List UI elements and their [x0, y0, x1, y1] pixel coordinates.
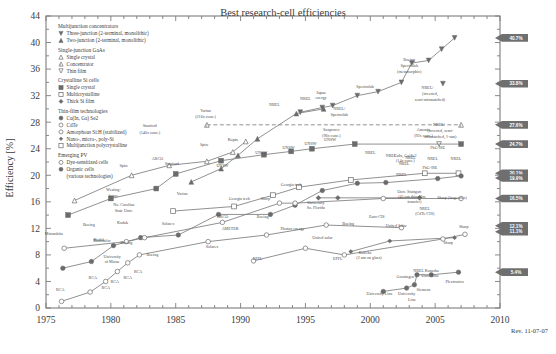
chart-root: 19751980198519901995200020052010 0481216… — [0, 0, 556, 354]
legend-item-label: Organic cells — [67, 166, 94, 172]
data-point-marker — [125, 261, 130, 266]
efficiency-callout: 24.7% — [495, 140, 528, 148]
y-tick-label: 24 — [31, 144, 41, 154]
data-annotation: Amonix — [417, 127, 430, 132]
data-annotation: Siemens — [417, 287, 431, 292]
data-annotation: Spire — [200, 142, 209, 147]
data-point-marker — [59, 144, 63, 148]
x-tick-label: 1995 — [296, 315, 315, 325]
data-annotation: Photon energy — [281, 226, 306, 231]
efficiency-callout: 33.8% — [495, 80, 528, 88]
legend-item-label: Concentrator — [67, 61, 94, 67]
y-tick-label: 44 — [31, 11, 41, 21]
legend-group-heading: Multijunction concentrators — [58, 23, 118, 29]
best-research-cell-efficiencies-chart: 19751980198519901995200020052010 0481216… — [0, 0, 556, 354]
data-annotation: ARCO — [152, 156, 163, 161]
data-point-marker — [268, 212, 273, 217]
data-point-marker — [176, 233, 181, 238]
data-annotation: Kopin — [228, 137, 238, 142]
data-point-marker — [59, 116, 63, 120]
data-annotation: (92x conc.) — [414, 133, 433, 138]
data-point-marker — [355, 181, 360, 186]
data-annotation: RCA — [88, 275, 96, 280]
data-annotation: UNSW — [283, 145, 295, 150]
data-point-marker — [324, 223, 329, 228]
data-annotation: No. Carolina — [113, 202, 134, 207]
data-annotation: Varian — [177, 191, 188, 196]
y-tick-label: 36 — [31, 64, 41, 74]
data-annotation: Georgia tech — [229, 196, 250, 201]
callout-value: 12.1% — [509, 224, 522, 229]
data-annotation: transfer) — [407, 199, 422, 204]
data-point-marker — [348, 178, 353, 183]
data-annotation: Groningen — [397, 274, 415, 279]
data-annotation: Sharp — [459, 224, 469, 229]
data-annotation: Univ. Stuttgart — [397, 189, 422, 194]
data-annotation: Monosolar — [93, 238, 111, 243]
data-annotation: Boeing — [257, 214, 269, 219]
data-annotation: Spectrolab — [356, 84, 374, 89]
data-annotation: Euro-CIS — [369, 214, 385, 219]
data-annotation: Boeing — [121, 240, 133, 245]
data-point-marker — [232, 204, 237, 209]
data-annotation: Solarex — [162, 221, 175, 226]
data-annotation: energy — [315, 95, 327, 100]
data-point-marker — [415, 273, 420, 278]
data-annotation: United Solar — [386, 223, 407, 228]
data-annotation: AMETEK — [222, 226, 239, 231]
legend-group-heading: Crystalline Si cells — [58, 77, 99, 83]
data-annotation: NREL Konarka — [413, 268, 439, 273]
data-point-marker — [62, 246, 67, 251]
data-point-marker — [59, 92, 63, 96]
data-point-marker — [456, 270, 461, 275]
data-annotation: EPFL — [253, 256, 263, 261]
data-point-marker — [111, 243, 116, 248]
data-annotation: house — [109, 193, 119, 198]
data-annotation: University Linz — [366, 291, 392, 296]
y-tick-label: 12 — [31, 224, 41, 234]
y-tick-label: 8 — [35, 250, 40, 260]
data-annotation: So. Florida — [307, 205, 325, 210]
data-annotation: NREL — [396, 172, 407, 177]
data-annotation: Boeing — [146, 252, 158, 257]
chart-title: Best research-cell efficiencies — [220, 7, 346, 18]
legend-item-label: Single crystal — [67, 54, 96, 60]
legend-group-heading: Thin-film technologies — [58, 108, 108, 114]
data-annotation: FhG-ISE — [430, 145, 445, 150]
revision-label: Rev. 11-07-07 — [511, 327, 549, 334]
legend-item-label: Thick Si film — [67, 98, 95, 104]
data-annotation: Stanford — [165, 161, 179, 166]
callout-value: 40.7% — [509, 36, 522, 41]
data-annotation: Sunpower — [323, 127, 340, 132]
data-annotation: Linz — [408, 297, 416, 302]
data-annotation: RCA — [134, 269, 142, 274]
data-point-marker — [459, 142, 464, 147]
data-point-marker — [404, 286, 409, 291]
data-point-marker — [61, 266, 66, 271]
legend-item-label: Single crystal — [67, 84, 96, 90]
data-point-marker — [435, 176, 440, 181]
data-annotation: NREL — [365, 150, 376, 155]
data-point-marker — [277, 201, 282, 206]
data-annotation: RCA — [124, 275, 132, 280]
data-annotation: Georgia tech — [281, 182, 302, 187]
data-point-marker — [303, 246, 308, 251]
data-annotation: Varian — [200, 108, 211, 113]
data-point-marker — [173, 172, 178, 177]
data-annotation: Plextronics — [445, 279, 464, 284]
data-annotation: (14x conc.) — [396, 158, 415, 163]
y-tick-label: 0 — [35, 303, 40, 313]
efficiency-callout: 5.4% — [495, 268, 528, 276]
y-axis-label: Efficiency [%] — [4, 139, 15, 198]
efficiency-callout: 11.1% — [495, 228, 528, 236]
efficiency-callout: 16.5% — [495, 195, 528, 203]
data-point-marker — [293, 201, 298, 206]
y-tick-label: 16 — [31, 197, 41, 207]
data-point-marker — [310, 146, 315, 151]
data-annotation: NREL/ — [433, 122, 446, 127]
data-point-marker — [384, 180, 389, 185]
data-point-marker — [137, 253, 142, 258]
y-tick-label: 20 — [31, 171, 41, 181]
legend-item-label: Two-junction (2-terminal, monolithic) — [67, 37, 147, 44]
legend-item-label: Thin film — [67, 68, 87, 74]
